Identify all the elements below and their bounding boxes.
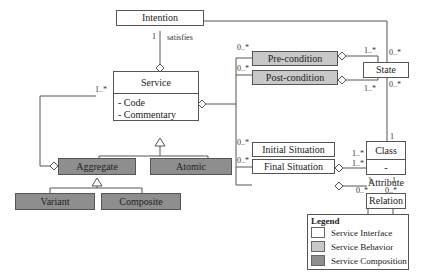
- class-name: Initial Situation: [253, 143, 334, 156]
- generalization-triangle-aggregate: [92, 178, 102, 186]
- attribute-code: - Code: [118, 97, 198, 109]
- class-name: Relation: [367, 194, 405, 208]
- generalization-triangle-service: [155, 138, 165, 146]
- aggregation-diamond-aggregate: [50, 162, 58, 170]
- aggregation-diamond-final: [335, 182, 343, 190]
- class-composite: Composite: [101, 193, 181, 210]
- aggregation-diamond-pre: [338, 52, 346, 60]
- class-state: State: [363, 62, 409, 78]
- class-name: State: [364, 63, 408, 77]
- class-name: Service: [114, 72, 198, 94]
- class-class: Class -Attribute: [366, 141, 406, 175]
- class-variant: Variant: [15, 193, 95, 210]
- legend-swatch-behavior: [311, 241, 325, 252]
- multiplicity: 1..*: [352, 159, 364, 168]
- multiplicity: 0..*: [389, 80, 401, 89]
- multiplicity: 1..*: [364, 46, 376, 55]
- class-intention: Intention: [116, 10, 204, 26]
- class-name: Intention: [117, 11, 203, 25]
- legend-label: Service Composition: [331, 256, 407, 266]
- multiplicity: 1: [392, 176, 396, 185]
- class-aggregate: Aggregate: [58, 158, 136, 175]
- multiplicity: 0..*: [237, 64, 249, 73]
- class-final-situation: Final Situation: [252, 159, 335, 174]
- legend-swatch-interface: [311, 227, 325, 238]
- multiplicity: 1: [152, 32, 156, 41]
- multiplicity: 1..*: [364, 84, 376, 93]
- multiplicity: 0..*: [237, 43, 249, 52]
- class-initial-situation: Initial Situation: [252, 142, 335, 157]
- legend-title: Legend: [311, 216, 340, 226]
- multiplicity: 1..*: [352, 149, 364, 158]
- multiplicity: 0..*: [237, 138, 249, 147]
- class-postcondition: Post-condition: [252, 70, 338, 85]
- class-name: Atomic: [151, 159, 231, 174]
- class-name: Class: [367, 142, 405, 160]
- class-name: Final Situation: [253, 160, 334, 173]
- legend-swatch-composition: [311, 255, 325, 266]
- legend-label: Service Behavior: [331, 242, 393, 252]
- class-relation: Relation: [366, 193, 406, 209]
- multiplicity: 1: [390, 132, 394, 141]
- aggregation-diamond-post: [338, 76, 346, 84]
- class-atomic: Atomic: [150, 158, 232, 175]
- association-label: satisfies: [167, 33, 193, 42]
- attribute-commentary: - Commentary: [118, 109, 198, 121]
- legend-item-interface: Service Interface: [311, 227, 392, 238]
- multiplicity: 1..*: [95, 85, 107, 94]
- class-name: Composite: [102, 194, 180, 209]
- class-service: Service - Code - Commentary: [113, 71, 199, 121]
- aggregation-diamond-service-right: [198, 100, 206, 108]
- class-name: Pre-condition: [253, 52, 337, 65]
- aggregation-diamond-initial: [335, 164, 343, 172]
- multiplicity: 0..*: [237, 156, 249, 165]
- legend-item-composition: Service Composition: [311, 255, 407, 266]
- legend: Legend Service Interface Service Behavio…: [307, 214, 409, 270]
- multiplicity: 0..*: [389, 48, 401, 57]
- class-name: Post-condition: [253, 71, 337, 84]
- legend-label: Service Interface: [331, 228, 392, 238]
- legend-item-behavior: Service Behavior: [311, 241, 393, 252]
- multiplicity: 1: [368, 176, 372, 185]
- class-name: Variant: [16, 194, 94, 209]
- class-name: Aggregate: [59, 159, 135, 174]
- class-precondition: Pre-condition: [252, 51, 338, 66]
